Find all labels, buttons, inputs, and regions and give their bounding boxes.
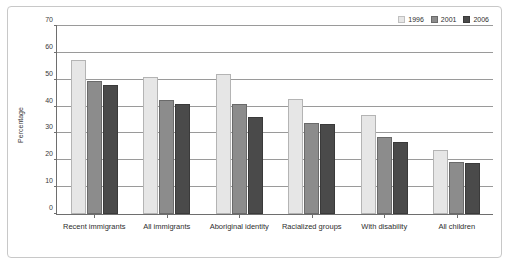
y-tick-mark <box>54 132 57 133</box>
y-tick-label: 60 <box>45 42 53 49</box>
y-tick-mark <box>54 213 57 214</box>
bar-1996-recent-immigrants[interactable] <box>71 60 86 214</box>
bar-1996-aboriginal-identity[interactable] <box>216 74 231 214</box>
bar-2006-all-immigrants[interactable] <box>175 104 190 214</box>
bar-group: Racialized groups <box>276 26 349 214</box>
x-tick-label: All immigrants <box>143 222 190 231</box>
chart-legend: 199620012006 <box>395 14 492 25</box>
y-tick-label: 40 <box>45 96 53 103</box>
y-tick-mark <box>54 186 57 187</box>
x-tick-label: Aboriginal identity <box>210 222 269 231</box>
bar-2001-aboriginal-identity[interactable] <box>232 104 247 214</box>
bar-2001-all-children[interactable] <box>449 162 464 214</box>
x-tick-mark <box>384 214 385 218</box>
bar-groups: Recent immigrantsAll immigrantsAborigina… <box>58 26 493 214</box>
y-tick-mark <box>54 52 57 53</box>
bar-group: With disability <box>348 26 421 214</box>
x-tick-label: Racialized groups <box>282 222 342 231</box>
legend-item-1996[interactable]: 1996 <box>398 16 424 23</box>
x-tick-mark <box>312 214 313 218</box>
y-tick-label: 20 <box>45 150 53 157</box>
bar-group: All immigrants <box>131 26 204 214</box>
y-tick-label: 10 <box>45 177 53 184</box>
bar-2006-all-children[interactable] <box>465 163 480 214</box>
bar-2001-racialized-groups[interactable] <box>304 123 319 214</box>
bar-1996-all-children[interactable] <box>433 150 448 214</box>
x-tick-mark <box>94 214 95 218</box>
legend-label: 2006 <box>473 16 489 23</box>
x-tick-label: With disability <box>361 222 407 231</box>
x-tick-label: All children <box>438 222 475 231</box>
bar-2006-racialized-groups[interactable] <box>320 124 335 214</box>
y-tick-mark <box>54 159 57 160</box>
plot-area: 010203040506070 Recent immigrantsAll imm… <box>56 26 493 215</box>
x-tick-mark <box>167 214 168 218</box>
bar-2006-aboriginal-identity[interactable] <box>248 117 263 214</box>
bar-2006-recent-immigrants[interactable] <box>103 85 118 214</box>
y-tick-mark <box>54 25 57 26</box>
y-tick-label: 30 <box>45 123 53 130</box>
legend-item-2006[interactable]: 2006 <box>463 16 489 23</box>
bar-group: All children <box>421 26 494 214</box>
y-tick-label: 0 <box>49 204 53 211</box>
y-tick-label: 50 <box>45 69 53 76</box>
bar-group: Aboriginal identity <box>203 26 276 214</box>
bar-2001-recent-immigrants[interactable] <box>87 81 102 214</box>
y-tick-mark <box>54 79 57 80</box>
chart-figure: Percentage 010203040506070 Recent immigr… <box>7 6 502 258</box>
x-tick-label: Recent immigrants <box>63 222 126 231</box>
bar-2006-with-disability[interactable] <box>393 142 408 215</box>
y-axis-label: Percentage <box>17 107 24 143</box>
legend-swatch-icon <box>431 16 438 23</box>
x-tick-mark <box>457 214 458 218</box>
legend-label: 1996 <box>408 16 424 23</box>
legend-swatch-icon <box>398 16 405 23</box>
y-tick-mark <box>54 106 57 107</box>
bar-group: Recent immigrants <box>58 26 131 214</box>
bar-2001-all-immigrants[interactable] <box>159 100 174 214</box>
bar-1996-all-immigrants[interactable] <box>143 77 158 214</box>
bar-2001-with-disability[interactable] <box>377 137 392 214</box>
legend-item-2001[interactable]: 2001 <box>431 16 457 23</box>
bar-1996-racialized-groups[interactable] <box>288 99 303 214</box>
y-tick-label: 70 <box>45 16 53 23</box>
x-tick-mark <box>239 214 240 218</box>
legend-label: 2001 <box>441 16 457 23</box>
legend-swatch-icon <box>463 16 470 23</box>
bar-1996-with-disability[interactable] <box>361 115 376 214</box>
